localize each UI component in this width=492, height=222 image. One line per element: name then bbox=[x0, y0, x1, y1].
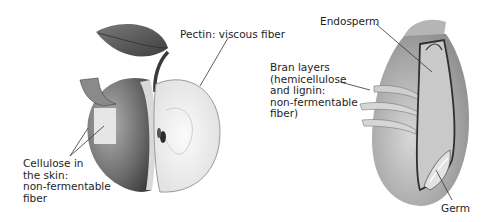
leaf-shape bbox=[96, 24, 168, 56]
label-germ: Germ bbox=[441, 203, 470, 215]
grain-kernel-illustration bbox=[340, 20, 469, 206]
label-bran-layers: Bran layers (hemicellulose and lignin: n… bbox=[270, 62, 358, 120]
label-pectin: Pectin: viscous fiber bbox=[180, 29, 285, 41]
leader-pectin bbox=[200, 38, 228, 86]
label-cellulose: Cellulose in the skin: non-fermentable f… bbox=[23, 158, 111, 204]
label-endosperm: Endosperm bbox=[320, 16, 379, 28]
exposed-flesh-patch bbox=[94, 108, 116, 144]
kernel-tuft bbox=[404, 20, 446, 36]
